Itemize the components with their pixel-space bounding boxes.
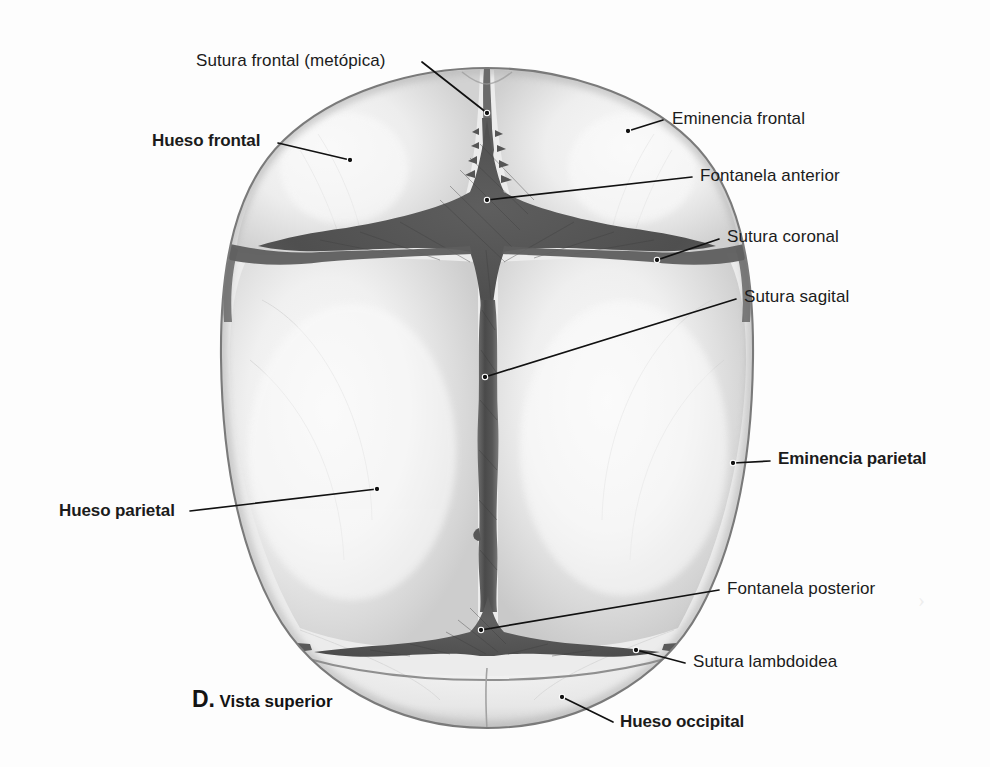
sagittal-suture <box>478 300 499 612</box>
leader-dot-hueso-frontal <box>347 157 352 162</box>
leader-dot-fontanela-posterior <box>478 627 483 632</box>
label-fontanela-anterior: Fontanela anterior <box>700 167 840 184</box>
label-sutura-coronal: Sutura coronal <box>727 228 839 245</box>
skull-superior-view-illustration <box>0 0 990 767</box>
leader-dot-eminencia-frontal <box>625 128 630 133</box>
label-sutura-lambdoidea: Sutura lambdoidea <box>693 653 837 670</box>
figure-caption: D. Vista superior <box>192 688 333 711</box>
skull-body <box>200 50 780 750</box>
leader-dot-sutura-coronal <box>654 257 659 262</box>
caption-text: Vista superior <box>219 692 332 711</box>
label-sutura-sagital: Sutura sagital <box>744 288 849 305</box>
label-fontanela-posterior: Fontanela posterior <box>727 580 875 597</box>
label-eminencia-parietal: Eminencia parietal <box>778 450 926 467</box>
leader-dot-sutura-lambdoidea <box>633 647 638 652</box>
leader-dot-sutura-frontal-metopica <box>484 110 489 115</box>
leader-dot-hueso-parietal <box>374 486 379 491</box>
label-sutura-frontal-metopica: Sutura frontal (metópica) <box>196 52 386 69</box>
label-hueso-parietal: Hueso parietal <box>59 502 175 519</box>
leader-dot-eminencia-parietal <box>730 460 735 465</box>
label-hueso-occipital: Hueso occipital <box>620 713 744 730</box>
leader-dot-sutura-sagital <box>482 374 487 379</box>
leader-dot-hueso-occipital <box>559 694 564 699</box>
label-eminencia-frontal: Eminencia frontal <box>672 110 805 127</box>
leader-dot-fontanela-anterior <box>484 197 489 202</box>
caption-letter: D. <box>192 686 215 712</box>
label-hueso-frontal: Hueso frontal <box>152 132 260 149</box>
scan-artifact: › <box>918 588 925 613</box>
parietal-eminence-right-highlight <box>520 300 728 596</box>
parietal-eminence-left-highlight <box>248 304 456 600</box>
figure-page: Sutura frontal (metópica)Hueso frontalEm… <box>0 0 990 767</box>
